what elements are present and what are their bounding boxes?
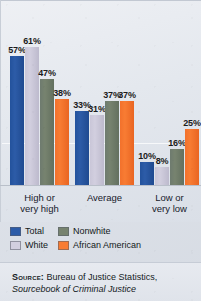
source-line-2: Sourcebook of Criminal Justice: [12, 284, 136, 294]
source-note: Source: Bureau of Justice Statistics, So…: [0, 262, 201, 301]
legend-label-nonwhite: Nonwhite: [73, 226, 111, 237]
value-label-white-0: 61%: [22, 36, 42, 46]
legend-label-total: Total: [25, 226, 44, 237]
source-line-1: Source: Bureau of Justice Statistics,: [12, 272, 157, 282]
plot-area: 57%61%47%38%33%31%37%37%10%8%16%25% High…: [0, 0, 201, 222]
value-label-african-american-1: 37%: [117, 90, 137, 100]
value-label-nonwhite-0: 47%: [37, 68, 57, 78]
legend-swatch-african-american: [58, 241, 69, 250]
source-kicker: Source:: [12, 272, 44, 282]
bar-african-american-2: [185, 129, 199, 185]
legend-swatch-white: [10, 241, 21, 250]
value-label-nonwhite-2: 16%: [167, 138, 187, 148]
bar-white-2: [155, 167, 169, 185]
bar-white-1: [90, 115, 104, 185]
chart-legend: TotalWhiteNonwhiteAfrican American: [0, 224, 201, 260]
chart-figure: 57%61%47%38%33%31%37%37%10%8%16%25% High…: [0, 0, 201, 301]
source-text-1: Bureau of Justice Statistics,: [44, 272, 157, 282]
bar-african-american-0: [55, 99, 69, 185]
bar-nonwhite-1: [105, 101, 119, 185]
legend-swatch-total: [10, 227, 21, 236]
value-label-white-1: 31%: [87, 104, 107, 114]
bar-total-1: [75, 111, 89, 185]
bars-layer: 57%61%47%38%33%31%37%37%10%8%16%25%: [0, 0, 201, 185]
legend-label-african-american: African American: [73, 240, 141, 251]
legend-label-white: White: [25, 240, 48, 251]
legend-swatch-nonwhite: [58, 227, 69, 236]
bar-nonwhite-2: [170, 149, 184, 185]
value-label-white-2: 8%: [152, 156, 172, 166]
bar-total-0: [10, 56, 24, 185]
category-label-2: Low orvery low: [131, 192, 201, 214]
bar-african-american-1: [120, 101, 134, 185]
value-label-african-american-2: 25%: [182, 118, 201, 128]
value-label-african-american-0: 38%: [52, 88, 72, 98]
value-label-total-0: 57%: [7, 45, 27, 55]
axis-baseline: [0, 185, 201, 186]
